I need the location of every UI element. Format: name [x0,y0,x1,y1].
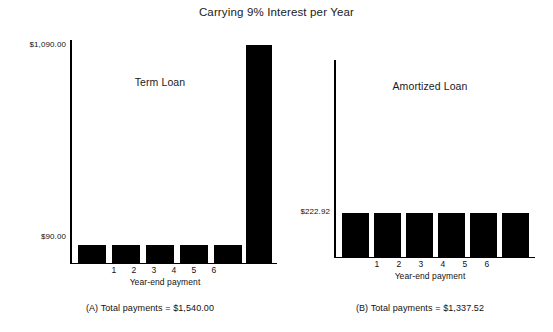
bar-b-6 [502,213,529,257]
bar-b-4 [438,213,465,257]
bar-b-5 [470,213,497,257]
figure-root: Carrying 9% Interest per Year $1,090.00 … [0,0,553,332]
bar-b-1 [342,213,369,257]
x-axis-label-b: Year-end payment [375,271,485,281]
x-tick-b-2: 2 [393,259,405,269]
bar-b-2 [374,213,401,257]
x-tick-b-4: 4 [437,259,449,269]
x-tick-b-1: 1 [371,259,383,269]
x-tick-b-3: 3 [415,259,427,269]
chart-panel-amortized-loan: $222.92 1 2 3 4 5 6 Year-end payment Amo… [0,0,553,332]
x-tick-b-5: 5 [459,259,471,269]
y-tick-label-b-0: $222.92 [272,207,330,216]
figure-caption-b: (B) Total payments = $1,337.52 [290,303,550,313]
x-tick-b-6: 6 [481,259,493,269]
bar-b-3 [406,213,433,257]
plot-title-amortized-loan: Amortized Loan [360,80,500,92]
x-axis-line-b [334,257,535,259]
y-axis-line-b [334,60,336,258]
